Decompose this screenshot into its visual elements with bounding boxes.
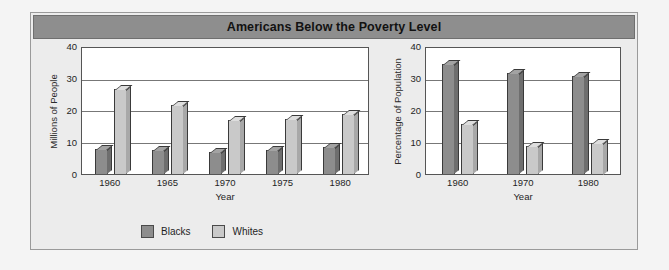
chart-figure: Americans Below the Poverty Level Millio… <box>30 12 638 250</box>
x-axis-ticks-left: 1960 1965 1970 1975 1980 <box>81 177 369 191</box>
legend-label-blacks: Blacks <box>161 226 190 237</box>
bar-group-1975-left <box>266 48 298 174</box>
bar-group-1965-left <box>152 48 184 174</box>
bar-blacks-1980-right <box>572 76 585 174</box>
y-axis-ticks-right: 40 30 20 10 0 <box>405 47 423 175</box>
x-axis-label-left: Year <box>81 191 369 202</box>
y-tick-0-left: 0 <box>72 170 77 180</box>
y-tick-30-left: 30 <box>66 74 77 84</box>
x-tick-1980-left: 1980 <box>311 177 369 191</box>
y-tick-30-right: 30 <box>410 74 421 84</box>
x-tick-1975-left: 1975 <box>254 177 312 191</box>
bar-groups-right <box>426 48 620 174</box>
bar-whites-1980-right <box>591 143 604 175</box>
y-axis-ticks-left: 40 30 20 10 0 <box>61 47 79 175</box>
whites-swatch-icon <box>212 225 225 238</box>
y-axis-label-left: Millions of People <box>45 47 61 175</box>
bar-blacks-1965-left <box>152 150 165 174</box>
bar-whites-1980-left <box>342 114 355 174</box>
chart-legend: Blacks Whites <box>141 225 263 238</box>
plot-area-right <box>425 47 621 175</box>
x-tick-1960-right: 1960 <box>425 177 490 191</box>
x-axis-ticks-right: 1960 1970 1980 <box>425 177 621 191</box>
bar-group-1960-right <box>442 48 474 174</box>
x-tick-1970-left: 1970 <box>196 177 254 191</box>
bar-blacks-1960-right <box>442 64 455 174</box>
bar-blacks-1970-right <box>507 73 520 174</box>
x-tick-1960-left: 1960 <box>81 177 139 191</box>
y-tick-20-right: 20 <box>410 106 421 116</box>
y-tick-0-right: 0 <box>416 170 421 180</box>
bar-blacks-1975-left <box>266 150 279 174</box>
legend-item-whites: Whites <box>212 225 263 238</box>
y-axis-label-right: Percentage of Population <box>389 47 405 175</box>
blacks-swatch-icon <box>141 225 154 238</box>
bar-whites-1965-left <box>171 105 184 174</box>
bar-groups-left <box>82 48 368 174</box>
y-tick-40-left: 40 <box>66 42 77 52</box>
bar-group-1970-left <box>209 48 241 174</box>
bar-whites-1960-right <box>461 124 474 174</box>
bar-whites-1970-left <box>228 120 241 174</box>
chart-panel-millions: Millions of People 40 30 20 10 0 <box>45 47 375 207</box>
x-axis-label-right: Year <box>425 191 621 202</box>
bar-group-1960-left <box>95 48 127 174</box>
legend-label-whites: Whites <box>232 226 263 237</box>
bar-whites-1975-left <box>285 119 298 174</box>
y-tick-10-left: 10 <box>66 138 77 148</box>
bar-whites-1960-left <box>114 89 127 174</box>
bar-whites-1970-right <box>526 146 539 174</box>
plot-area-left <box>81 47 369 175</box>
x-tick-1970-right: 1970 <box>490 177 555 191</box>
chart-panel-percentage: Percentage of Population 40 30 20 10 0 <box>389 47 627 207</box>
x-tick-1965-left: 1965 <box>139 177 197 191</box>
bar-blacks-1960-left <box>95 149 108 174</box>
bar-group-1980-left <box>323 48 355 174</box>
y-tick-20-left: 20 <box>66 106 77 116</box>
bar-group-1980-right <box>572 48 604 174</box>
legend-item-blacks: Blacks <box>141 225 190 238</box>
bar-group-1970-right <box>507 48 539 174</box>
page-title: Americans Below the Poverty Level <box>227 20 442 34</box>
bar-blacks-1970-left <box>209 152 222 174</box>
y-tick-40-right: 40 <box>410 42 421 52</box>
chart-title-bar: Americans Below the Poverty Level <box>33 15 635 39</box>
bar-blacks-1980-left <box>323 147 336 174</box>
y-tick-10-right: 10 <box>410 138 421 148</box>
x-tick-1980-right: 1980 <box>556 177 621 191</box>
